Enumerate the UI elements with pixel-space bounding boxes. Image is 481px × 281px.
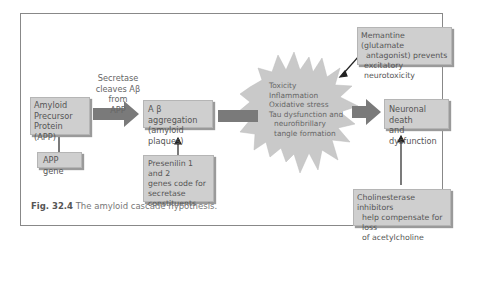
app-gene-box: APP gene <box>37 152 82 168</box>
neuronal-death-box: Neuronal death and dysfunction <box>384 99 449 129</box>
presenilin-box: Presenilin 1 and 2 genes code for secret… <box>143 155 214 202</box>
app-box: Amyloid Precursor Protein (APP) <box>30 97 90 135</box>
caption-text: The amyloid cascade hypothesis. <box>76 201 217 211</box>
caption-number: Fig. 32.4 <box>31 201 73 211</box>
secretase-label: Secretase cleaves Aβ from APP <box>88 73 148 115</box>
toxicity-list: Toxicity Inflammation Oxidative stress T… <box>269 81 343 139</box>
cholinesterase-box: Cholinesterase inhibitors help compensat… <box>353 189 451 226</box>
arrow-star-to-neuronal <box>352 99 381 125</box>
memantine-box: Memantine (glutamate antagonist) prevent… <box>357 27 452 65</box>
figure-caption: Fig. 32.4 The amyloid cascade hypothesis… <box>31 201 217 211</box>
abeta-box: A β aggregation (amyloid plaques) <box>143 100 213 128</box>
arrow-abeta-to-star <box>218 110 258 122</box>
